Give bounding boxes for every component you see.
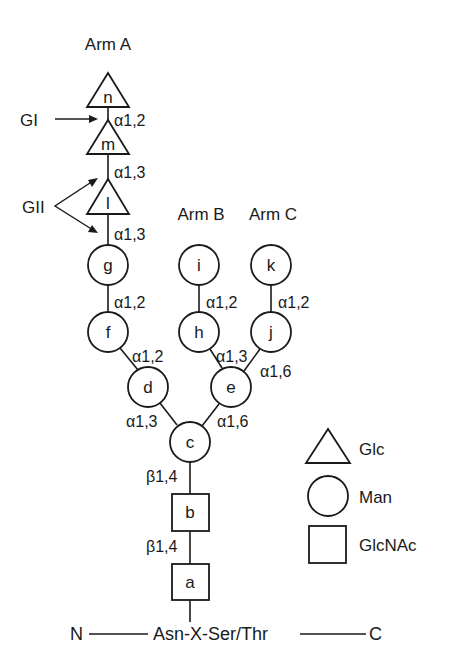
bond-label-d-c: α1,3 xyxy=(126,413,158,430)
node-n-label: n xyxy=(103,88,112,107)
peptide-backbone: N Asn-X-Ser/Thr C xyxy=(70,624,382,644)
node-i-label: i xyxy=(197,256,201,275)
arm-b-label: Arm B xyxy=(177,205,224,224)
n-terminus-label: N xyxy=(70,624,83,644)
node-j-label: j xyxy=(268,323,273,342)
bond-label-m-l: α1,3 xyxy=(114,164,146,181)
node-g: g xyxy=(88,245,128,285)
bond-label-k-j: α1,2 xyxy=(278,294,310,311)
node-f-label: f xyxy=(106,323,111,342)
bond-d-c xyxy=(160,403,177,425)
arrowhead-icon xyxy=(88,178,98,187)
enzyme-gii: GII xyxy=(22,178,98,233)
arm-c-label: Arm C xyxy=(249,205,297,224)
enzyme-gi: GI xyxy=(20,111,98,130)
c-terminus-label: C xyxy=(369,624,382,644)
arrowhead-icon xyxy=(89,115,98,123)
node-b-label: b xyxy=(185,503,194,522)
bond-label-j-e: α1,6 xyxy=(260,363,292,380)
node-j: j xyxy=(251,312,291,352)
bond-label-e-c: α1,6 xyxy=(217,413,249,430)
bond-label-c-b: β1,4 xyxy=(146,468,178,485)
node-l-label: l xyxy=(106,194,110,213)
bond-label-n-m: α1,2 xyxy=(114,112,146,129)
enzyme-gii-label: GII xyxy=(22,198,45,217)
legend-item-glcnac: GlcNAc xyxy=(309,526,417,563)
node-m-label: m xyxy=(101,135,115,154)
node-k-label: k xyxy=(267,256,276,275)
legend-label-glc: Glc xyxy=(359,440,385,459)
node-c-label: c xyxy=(186,433,195,452)
node-f: f xyxy=(88,312,128,352)
man-circle-icon xyxy=(308,476,348,516)
arm-a-label: Arm A xyxy=(85,35,132,54)
legend-label-man: Man xyxy=(359,488,392,507)
node-h: h xyxy=(179,312,219,352)
node-c: c xyxy=(170,422,210,462)
arrow-icon xyxy=(55,181,93,230)
enzyme-gi-label: GI xyxy=(20,111,38,130)
node-e-label: e xyxy=(226,378,235,397)
node-a: a xyxy=(172,564,209,600)
node-e: e xyxy=(211,367,251,407)
bond-label-f-d: α1,2 xyxy=(132,348,164,365)
bond-label-l-g: α1,3 xyxy=(114,226,146,243)
node-b: b xyxy=(172,494,209,531)
node-d: d xyxy=(128,367,168,407)
glycan-diagram: Arm A Arm B Arm C n m l g f xyxy=(0,0,450,672)
node-k: k xyxy=(251,245,291,285)
arrowhead-icon xyxy=(88,225,98,233)
legend: Glc Man GlcNAc xyxy=(306,429,417,563)
bond-label-i-h: α1,2 xyxy=(206,294,238,311)
sequon-label: Asn-X-Ser/Thr xyxy=(153,624,268,644)
legend-item-glc: Glc xyxy=(306,429,385,463)
node-d-label: d xyxy=(143,378,152,397)
bond-label-g-f: α1,2 xyxy=(114,294,146,311)
bond-label-h-e: α1,3 xyxy=(216,348,248,365)
glc-triangle-icon xyxy=(306,429,350,463)
glcnac-square-icon xyxy=(309,526,346,563)
legend-item-man: Man xyxy=(308,476,392,516)
node-h-label: h xyxy=(194,323,203,342)
node-g-label: g xyxy=(103,256,112,275)
node-n: n xyxy=(87,73,129,107)
bond-label-b-a: β1,4 xyxy=(146,538,178,555)
node-a-label: a xyxy=(185,573,195,592)
node-i: i xyxy=(179,245,219,285)
legend-label-glcnac: GlcNAc xyxy=(359,536,417,555)
